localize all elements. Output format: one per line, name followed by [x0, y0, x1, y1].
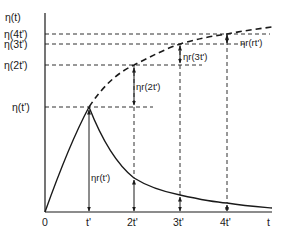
x-tick-3t: 3t': [173, 216, 184, 228]
y-label-eta-3t: η(3t'): [4, 38, 28, 50]
relaxation-curve: [89, 107, 272, 208]
x-axis-label: t: [267, 216, 270, 228]
x-tick-0: 0: [42, 216, 48, 228]
annotation-eta-r-t: ηr(t'): [91, 172, 110, 183]
annotation-eta-r-rt: ηr(rt'): [240, 37, 262, 48]
x-tick-2t: 2t': [127, 216, 138, 228]
y-label-eta-t: η(t'): [12, 101, 30, 113]
annotation-eta-r-2t: ηr(2t'): [136, 81, 161, 92]
y-axis-label: η(t): [5, 11, 21, 23]
y-label-eta-2t: η(2t'): [4, 59, 28, 71]
growth-curve: [45, 107, 89, 212]
horizontal-reference-lines: [45, 34, 270, 107]
relaxation-diagram: η(t) η(4t') η(3t') η(2t') η(t') 0 t' 2t'…: [0, 0, 286, 237]
annotation-eta-r-3t: ηr(3t'): [183, 51, 208, 62]
x-tick-t: t': [86, 216, 91, 228]
x-tick-4t: 4t': [220, 216, 231, 228]
